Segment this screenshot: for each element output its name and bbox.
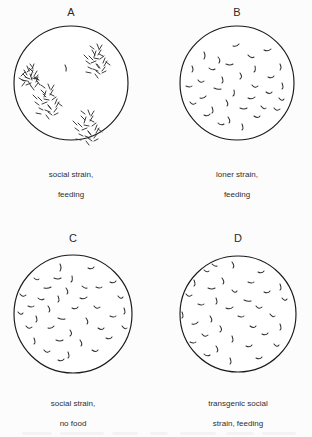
plate-outline-c [14,255,132,373]
petri-dish-c [0,250,156,382]
plate-outline-d [180,256,296,372]
panel-b-label: B [207,6,267,18]
panel-a-caption: social strain, feeding [11,160,131,210]
petri-dish-b [156,20,312,150]
petri-dish-d [156,250,312,382]
panel-a-label: A [41,6,101,18]
panel-d-label: D [208,232,268,244]
panel-b-caption: loner strain, feeding [177,160,297,210]
panel-d-caption-line2: strain, feeding [178,419,298,429]
panel-c-caption-line2: no food [13,419,133,429]
petri-dish-a [0,20,156,150]
panel-d-caption-line1: transgenic social [178,399,298,409]
panel-b-caption-line2: feeding [177,190,297,200]
panel-c-caption-line1: social strain, [13,399,133,409]
plate-outline-b [180,26,294,140]
figure-container: A social [0,0,312,437]
panel-b-caption-line1: loner strain, [177,170,297,180]
panel-c-label: C [43,232,103,244]
panel-a-caption-line1: social strain, [11,170,131,180]
panel-a-caption-line2: feeding [11,190,131,200]
cropped-caption-remnant [0,430,312,437]
